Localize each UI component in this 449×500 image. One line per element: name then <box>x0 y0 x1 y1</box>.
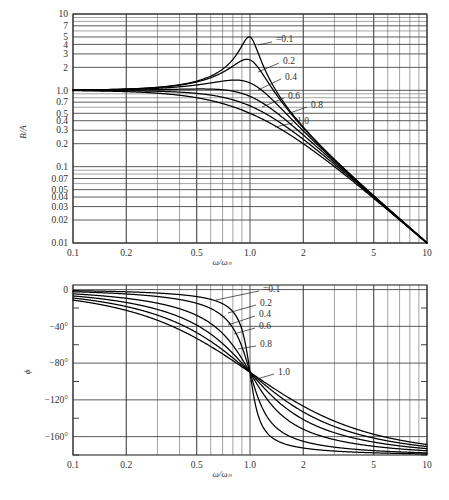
phase-panel: 0−40°−80°−120°−160°0.10.20.51.02510ϕω/ωₙ… <box>22 284 432 479</box>
magnitude-y-tick-label: 0.01 <box>51 238 68 248</box>
phase-curve-label: =0.1 <box>263 284 280 294</box>
magnitude-y-tick-label: 0.3 <box>56 125 68 135</box>
magnitude-y-tick-label: 1.0 <box>56 86 68 96</box>
magnitude-label-leader <box>258 79 281 90</box>
magnitude-y-tick-label: 2 <box>63 63 68 73</box>
magnitude-x-tick-label: 0.2 <box>120 248 132 258</box>
magnitude-x-axis-title: ω/ωₙ <box>212 257 231 267</box>
magnitude-y-tick-label: 0.4 <box>56 116 68 126</box>
phase-x-tick-label: 1.0 <box>244 460 256 470</box>
magnitude-y-tick-label: 0.07 <box>51 174 68 184</box>
magnitude-curve-label: 0.4 <box>285 72 297 82</box>
magnitude-curve-label: 1.0 <box>297 116 309 126</box>
phase-curve-label: 0.8 <box>260 339 272 349</box>
magnitude-x-tick-label: 2 <box>301 248 306 258</box>
phase-y-tick-label: −40° <box>49 322 68 332</box>
phase-label-leader <box>228 316 255 325</box>
magnitude-y-tick-label: 7 <box>63 21 68 31</box>
magnitude-curve-label: 0.2 <box>283 56 295 66</box>
magnitude-panel: 10754321.00.70.50.40.30.20.10.070.050.04… <box>18 9 432 267</box>
phase-label-leader <box>238 346 256 349</box>
phase-x-axis-title: ω/ωₙ <box>212 469 231 479</box>
phase-y-tick-label: 0 <box>63 285 68 295</box>
phase-y-tick-label: −160° <box>45 432 69 442</box>
magnitude-y-tick-label: 3 <box>63 49 68 59</box>
phase-x-tick-label: 0.2 <box>120 460 132 470</box>
phase-y-tick-label: −120° <box>45 395 69 405</box>
phase-x-tick-label: 5 <box>371 460 376 470</box>
phase-curve-label: 0.2 <box>260 298 272 308</box>
phase-x-tick-label: 2 <box>301 460 306 470</box>
magnitude-x-tick-label: 5 <box>371 248 376 258</box>
magnitude-x-tick-label: 0.5 <box>191 248 203 258</box>
magnitude-y-tick-label: 0.7 <box>56 97 68 107</box>
phase-x-tick-label: 0.5 <box>191 460 203 470</box>
magnitude-x-tick-label: 0.1 <box>67 248 79 258</box>
phase-curve-label: 0.4 <box>259 309 271 319</box>
magnitude-x-tick-label: 10 <box>422 248 432 258</box>
magnitude-y-tick-label: 0.2 <box>56 139 68 149</box>
phase-curve-label: 0.6 <box>259 321 271 331</box>
magnitude-curve-label: 0.8 <box>311 100 323 110</box>
phase-y-axis-title: ϕ <box>22 369 32 374</box>
phase-label-leader <box>234 328 255 334</box>
magnitude-label-leader <box>275 123 293 127</box>
magnitude-y-tick-label: 10 <box>59 9 69 19</box>
magnitude-y-tick-label: 0.02 <box>51 215 68 225</box>
magnitude-y-tick-label: 0.1 <box>56 162 68 172</box>
phase-y-tick-label: −80° <box>49 358 68 368</box>
magnitude-curve-label: =0.1 <box>276 34 293 44</box>
phase-x-tick-label: 10 <box>422 460 432 470</box>
bode-plot-svg: 10754321.00.70.50.40.30.20.10.070.050.04… <box>0 0 449 500</box>
magnitude-y-tick-label: 4 <box>63 40 68 50</box>
figure-container: 10754321.00.70.50.40.30.20.10.070.050.04… <box>0 0 449 500</box>
phase-x-tick-label: 0.1 <box>67 460 79 470</box>
magnitude-y-axis-title: B/A <box>18 125 28 139</box>
magnitude-x-tick-label: 1.0 <box>244 248 256 258</box>
magnitude-curve-label: 0.6 <box>288 91 300 101</box>
phase-curve-label: 1.0 <box>278 367 290 377</box>
magnitude-y-tick-label: 0.03 <box>51 202 68 212</box>
magnitude-y-tick-label: 0.04 <box>51 192 68 202</box>
